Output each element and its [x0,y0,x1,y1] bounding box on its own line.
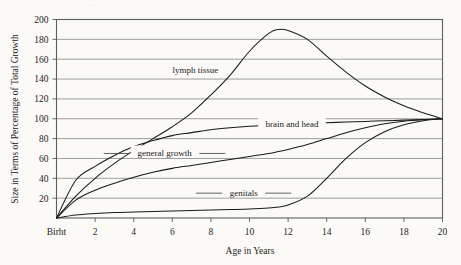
x-tick-labels-group: Birht2468101214161820 [47,227,448,237]
curve-label-lymph-tissue: lymph tissue [173,65,219,75]
y-tick-label-180: 180 [34,35,49,45]
curve-label-brain-and-head: brain and head [265,119,318,129]
x-tick-label-18: 18 [399,227,409,237]
x-tick-label-10: 10 [245,227,255,237]
y-tick-label-60: 60 [39,154,49,164]
curve-brain-and-head [57,119,443,218]
y-tick-label-80: 80 [39,134,49,144]
y-tick-label-40: 40 [39,174,49,184]
x-tick-label-2: 2 [93,227,98,237]
x-tick-label-16: 16 [361,227,371,237]
growth-curves-figure: ....... 20406080100120140160180200 Birht… [0,0,461,265]
curve-label-general-growth: general growth [137,148,192,158]
y-tick-label-140: 140 [34,74,49,84]
x-axis-title: Age in Years [226,246,275,256]
y-tick-label-160: 160 [34,55,49,65]
x-tick-label-20: 20 [438,227,448,237]
x-tick-label-4: 4 [131,227,136,237]
x-tick-label-Birht: Birht [47,227,67,237]
x-tick-label-6: 6 [170,227,175,237]
chart-canvas: 20406080100120140160180200 Birht24681012… [0,0,461,265]
curve-genitals [57,119,443,218]
x-tickmarks-group [95,218,442,222]
y-axis-title: Size in Terms of Percentage of Total Gro… [10,34,20,204]
curve-general-growth [57,119,443,218]
y-tick-label-120: 120 [34,94,49,104]
x-tick-label-8: 8 [209,227,214,237]
y-tick-label-200: 200 [34,15,49,25]
x-tick-label-12: 12 [283,227,293,237]
y-tick-labels-group: 20406080100120140160180200 [34,15,49,204]
gridlines-group [57,39,443,198]
y-tick-label-20: 20 [39,194,49,204]
x-tick-label-14: 14 [322,227,332,237]
curve-label-genitals: genitals [230,188,258,198]
curve-labels-group: lymph tissuebrain and headgeneral growth… [104,62,326,198]
y-tick-label-100: 100 [34,114,49,124]
y-tickmarks-group [53,20,57,199]
